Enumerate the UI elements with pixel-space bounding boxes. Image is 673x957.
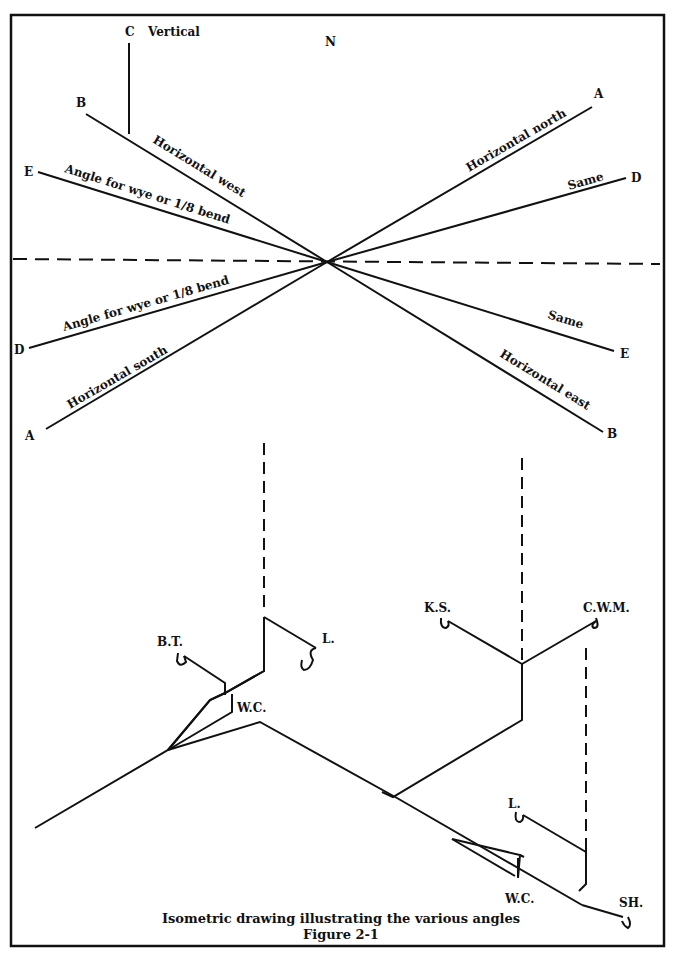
drain-end (582, 905, 623, 917)
label-horizontal-east: Horizontal east (497, 347, 593, 413)
stack-right-solid (579, 838, 586, 891)
ks-trap (441, 618, 449, 628)
cwm-trap (592, 618, 597, 628)
figure-frame (11, 15, 664, 946)
fixture-wc-lower: W.C. (504, 892, 534, 906)
vertical-letter: C (125, 25, 135, 39)
fixture-cwm: C.W.M. (583, 601, 630, 615)
fixture-l-lower: L. (508, 797, 521, 811)
label-same-east: Same (546, 307, 586, 331)
fixture-ks: K.S. (424, 601, 451, 615)
fixture-wc-upper: W.C. (236, 701, 266, 715)
l-lower-trap (516, 812, 524, 822)
line-wye-southwest (29, 262, 327, 348)
letter-a-north: A (593, 87, 604, 101)
letter-d-southwest: D (14, 343, 24, 357)
sh-trap (622, 917, 630, 928)
label-horizontal-west: Horizontal west (150, 133, 248, 201)
l-lower-arm (523, 815, 586, 852)
main-drain (35, 722, 582, 905)
letter-a-south: A (24, 429, 35, 443)
fixture-bt: B.T. (157, 635, 183, 649)
fixture-l-upper: L. (322, 632, 335, 646)
cwm-arm (522, 621, 596, 664)
wc-upper-stub (168, 694, 232, 750)
l-upper-arm (264, 617, 316, 648)
letter-d-northeast: D (631, 171, 641, 185)
branch-right (382, 664, 522, 797)
label-wye-southwest: Angle for wye or 1/8 bend (60, 273, 231, 334)
figure-number: Figure 2-1 (303, 927, 379, 942)
letter-b-east: B (607, 427, 617, 441)
isometric-angle-figure: C Vertical N B Horizontal west E Angle f… (0, 0, 673, 957)
bt-trap (177, 653, 186, 665)
north-label: N (325, 35, 336, 49)
vertical-label: Vertical (147, 25, 200, 39)
bt-arm (184, 656, 225, 695)
line-horizontal-east (327, 262, 603, 432)
letter-e-west: E (24, 165, 33, 179)
figure-caption: Isometric drawing illustrating the vario… (162, 911, 520, 926)
line-wye-west (38, 172, 327, 262)
isometric-piping (35, 443, 630, 928)
line-same-east (327, 262, 614, 351)
label-horizontal-south: Horizontal south (65, 343, 171, 412)
line-same-northeast (327, 178, 626, 262)
wc-lower-fork (452, 839, 515, 876)
fixture-sh: SH. (619, 896, 643, 910)
letter-b-west: B (76, 96, 86, 110)
l-upper-trap (301, 648, 316, 670)
ks-arm (448, 621, 522, 664)
label-horizontal-north: Horizontal north (464, 106, 569, 175)
line-horizontal-north (327, 107, 592, 262)
letter-e-east: E (620, 347, 629, 361)
